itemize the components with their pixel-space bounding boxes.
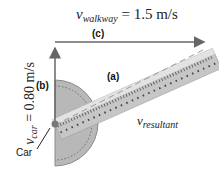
tag-c: (c) <box>92 28 104 39</box>
vector-diagram: vwalkway = 1.5 m/s vcar = 0.80 m/s (c) (… <box>0 0 219 177</box>
tag-b: (b) <box>36 80 49 91</box>
car-label: Car <box>16 147 32 158</box>
walkway-velocity-label: vwalkway = 1.5 m/s <box>76 6 178 24</box>
car-pointer-line <box>37 128 50 149</box>
car-dot <box>52 121 59 128</box>
car-velocity-label: vcar = 0.80 m/s <box>22 49 39 159</box>
tag-a: (a) <box>107 71 119 82</box>
resultant-velocity-label: vresultant <box>137 113 178 130</box>
